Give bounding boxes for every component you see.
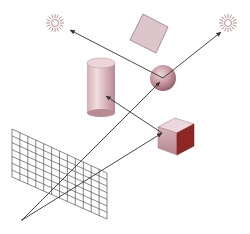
cube <box>158 118 194 155</box>
cylinder <box>87 58 115 117</box>
eye-point <box>21 219 23 221</box>
tilted-square <box>130 14 168 53</box>
image-plane-grid <box>12 129 107 219</box>
diagram-canvas <box>0 0 250 234</box>
light-left-icon <box>46 14 64 32</box>
ray-tracing-diagram: Ray tracing diagram <box>0 0 250 234</box>
light-right-icon <box>219 14 237 32</box>
ray-sphere-to-light-right <box>163 32 221 78</box>
